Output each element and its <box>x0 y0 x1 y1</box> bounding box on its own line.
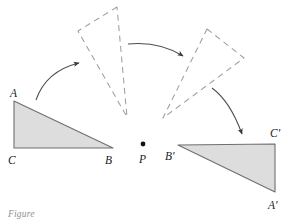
geometry-figure: A C B P B' C' A' <box>0 0 291 220</box>
vertex-label-a: A <box>9 87 18 99</box>
figure-caption: Figure <box>8 209 35 219</box>
vertex-label-b: B <box>105 154 112 166</box>
image-triangle-a-prime-b-prime-c-prime <box>178 144 275 192</box>
rotation-arrow-3 <box>212 88 242 134</box>
vertex-label-c-prime: C' <box>270 127 281 139</box>
intermediate-triangle-right <box>163 29 244 118</box>
vertex-label-b-prime: B' <box>165 150 175 162</box>
rotation-arrow-1 <box>36 63 79 100</box>
center-of-rotation-point <box>141 142 146 147</box>
vertex-label-c: C <box>8 154 16 166</box>
vertex-label-p: P <box>138 153 146 165</box>
intermediate-triangle-left <box>78 7 127 117</box>
rotation-arrow-2 <box>128 44 183 57</box>
vertex-label-a-prime: A' <box>267 199 278 211</box>
original-triangle-abc <box>14 101 113 148</box>
